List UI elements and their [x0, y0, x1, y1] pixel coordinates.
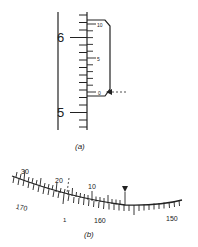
lower-label-150: 150 [166, 215, 178, 222]
vernier-diagram: 6 5 10 5 0 (a) [0, 0, 198, 247]
vernier-label-10: 10 [97, 22, 103, 28]
index-mark-1: 1 [63, 217, 67, 223]
reading-arrow-icon [122, 186, 128, 192]
upper-label-10: 10 [88, 183, 96, 190]
upper-label-30: 30 [21, 168, 29, 175]
vernier-ticks [87, 24, 96, 92]
vernier-label-5: 5 [97, 56, 100, 62]
lower-label-160: 160 [94, 217, 106, 224]
upper-scale-ticks [16, 170, 125, 205]
main-label-5: 5 [57, 105, 64, 120]
lower-label-170: 170 [15, 203, 28, 212]
upper-label-20: 20 [55, 177, 63, 184]
circular-scale-arc [12, 176, 182, 205]
lower-scale-ticks [13, 177, 180, 215]
caption-b: (b) [84, 230, 94, 239]
main-label-6: 6 [57, 30, 64, 45]
main-scale-ticks [70, 15, 87, 127]
vernier-label-0: 0 [98, 90, 101, 96]
caption-a: (a) [75, 142, 85, 151]
